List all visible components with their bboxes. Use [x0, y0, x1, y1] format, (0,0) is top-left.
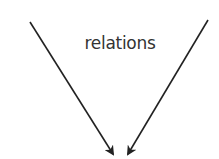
relations-label: relations — [60, 33, 180, 53]
arrows-diagram — [0, 0, 219, 159]
